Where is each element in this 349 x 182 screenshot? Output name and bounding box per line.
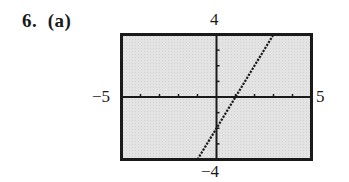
graph-screen — [0, 0, 349, 182]
